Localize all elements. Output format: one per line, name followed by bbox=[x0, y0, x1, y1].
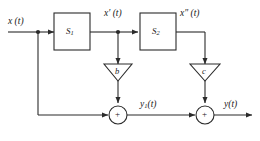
label-block-s1-subscript: 1 bbox=[71, 29, 74, 36]
junction-dot-xprime bbox=[116, 30, 120, 34]
label-block-s2-subscript: 2 bbox=[157, 29, 160, 36]
block-diagram-canvas: x (t) x′ (t) x″ (t) y1(t) y(t) S1 S2 b c… bbox=[0, 0, 260, 141]
label-block-s1: S1 bbox=[66, 27, 74, 37]
label-gain-b: b bbox=[115, 67, 119, 76]
label-block-s2: S2 bbox=[152, 27, 160, 37]
label-output-signal: y(t) bbox=[224, 100, 237, 110]
diagram-vector-layer bbox=[0, 0, 260, 141]
label-y1-suffix: (t) bbox=[147, 99, 156, 109]
label-y1-signal: y1(t) bbox=[140, 100, 156, 110]
junction-dot-input bbox=[36, 30, 40, 34]
label-input-signal: x (t) bbox=[8, 17, 24, 27]
label-summer-2-sign: + bbox=[202, 110, 207, 119]
label-gain-c: c bbox=[202, 67, 206, 76]
label-xprime-signal: x′ (t) bbox=[104, 9, 122, 19]
label-xdoubleprime-signal: x″ (t) bbox=[180, 9, 200, 19]
wire-group bbox=[8, 32, 252, 115]
label-summer-1-sign: + bbox=[115, 110, 120, 119]
